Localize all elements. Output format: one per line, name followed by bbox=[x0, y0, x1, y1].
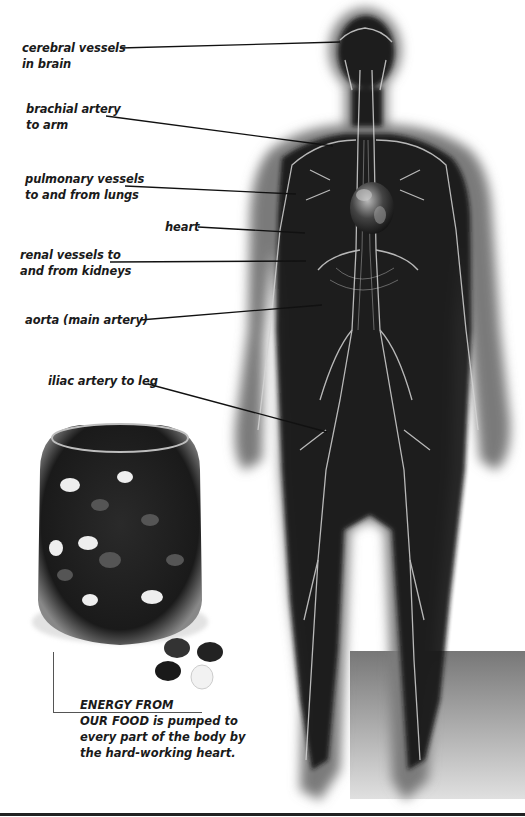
label-renal-vessels: renal vessels to and from kidneys bbox=[20, 247, 131, 279]
label-iliac-artery: iliac artery to leg bbox=[48, 373, 158, 389]
label-line: heart bbox=[165, 219, 199, 235]
caption-line: OUR FOOD is pumped to bbox=[80, 713, 245, 729]
caption-line: ENERGY FROM bbox=[80, 697, 245, 713]
label-line: iliac artery to leg bbox=[48, 373, 158, 389]
label-heart: heart bbox=[165, 219, 199, 235]
leader-brachial bbox=[106, 116, 333, 146]
label-line: brachial artery bbox=[26, 101, 121, 117]
label-line: renal vessels to bbox=[20, 247, 131, 263]
label-cerebral-vessels: cerebral vessels in brain bbox=[22, 40, 126, 72]
bottom-rule bbox=[0, 813, 525, 816]
jelly-bean-jar bbox=[32, 424, 223, 689]
label-line: pulmonary vessels bbox=[25, 171, 144, 187]
label-aorta: aorta (main artery) bbox=[25, 312, 148, 328]
caption: ENERGY FROM OUR FOOD is pumped to every … bbox=[80, 697, 245, 761]
label-line: aorta (main artery) bbox=[25, 312, 148, 328]
label-line: and from kidneys bbox=[20, 263, 131, 279]
caption-line: every part of the body by bbox=[80, 729, 245, 745]
leader-cerebral bbox=[120, 42, 340, 48]
label-line: to arm bbox=[26, 117, 121, 133]
label-line: in brain bbox=[22, 56, 126, 72]
label-line: to and from lungs bbox=[25, 187, 144, 203]
label-brachial-artery: brachial artery to arm bbox=[26, 101, 121, 133]
heart-organ bbox=[350, 182, 394, 234]
label-line: cerebral vessels bbox=[22, 40, 126, 56]
caption-line: the hard-working heart. bbox=[80, 745, 245, 761]
label-pulmonary-vessels: pulmonary vessels to and from lungs bbox=[25, 171, 144, 203]
